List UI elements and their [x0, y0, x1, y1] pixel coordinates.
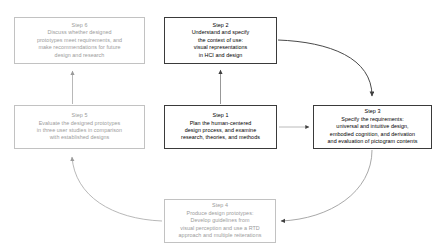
node-step1-body: Plan the human-centered design process, …	[181, 120, 260, 142]
node-step5-title: Step 5	[72, 112, 88, 119]
node-step5[interactable]: Step 5 Evaluate the designed prototypes …	[14, 105, 145, 149]
node-step6-title: Step 6	[72, 22, 88, 29]
node-step1-line-3: research, theories, and methods	[181, 134, 260, 141]
node-step2-line-1: Understand and specify	[192, 29, 250, 36]
connector-step3-to-step4	[281, 150, 372, 221]
node-step6-line-4: design and research	[37, 52, 122, 59]
node-step6-line-2: prototypes meet requirements, and	[37, 37, 122, 44]
diagram-canvas: Step 6 Discuss whether designed prototyp…	[0, 0, 446, 251]
node-step4-line-1: Produce design prototypes:	[179, 210, 262, 217]
node-step5-body: Evaluate the designed prototypes in thre…	[37, 120, 122, 142]
node-step6[interactable]: Step 6 Discuss whether designed prototyp…	[14, 17, 145, 64]
node-step5-line-3: with established designs	[37, 134, 122, 141]
connector-step4-to-step5	[72, 157, 162, 221]
node-step4-body: Produce design prototypes: Develop guide…	[179, 210, 262, 240]
node-step4-title: Step 4	[212, 202, 228, 209]
node-step1-line-1: Plan the human-centered	[181, 120, 260, 127]
node-step2-line-4: in HCI and design	[192, 52, 250, 59]
node-step3-line-1: Specify the requirements:	[328, 116, 418, 123]
node-step5-line-2: in three user studies in comparison	[37, 127, 122, 134]
node-step2-title: Step 2	[213, 22, 229, 29]
node-step2-line-3: visual representations	[192, 44, 250, 51]
node-step4-line-4: approach and multiple reiterations	[179, 232, 262, 239]
node-step4[interactable]: Step 4 Produce design prototypes: Develo…	[164, 199, 276, 243]
node-step1-title: Step 1	[213, 112, 229, 119]
node-step2-line-2: the context of use:	[192, 37, 250, 44]
node-step6-line-1: Discuss whether designed	[37, 29, 122, 36]
node-step2[interactable]: Step 2 Understand and specify the contex…	[164, 17, 277, 64]
node-step3-body: Specify the requirements: universal and …	[328, 116, 418, 146]
node-step3-line-2: universal and intuitive design,	[328, 123, 418, 130]
node-step3-line-3: embodied cognition, and derivation	[328, 131, 418, 138]
node-step4-line-3: visual perception and use a RTD	[179, 225, 262, 232]
node-step1-line-2: design process, and examine	[181, 127, 260, 134]
node-step3[interactable]: Step 3 Specify the requirements: univers…	[313, 105, 432, 149]
node-step1[interactable]: Step 1 Plan the human-centered design pr…	[164, 105, 277, 149]
node-step5-line-1: Evaluate the designed prototypes	[37, 120, 122, 127]
node-step3-title: Step 3	[365, 108, 381, 115]
node-step4-line-2: Develop guidelines from	[179, 217, 262, 224]
connector-step2-to-step3	[278, 40, 372, 96]
node-step2-body: Understand and specify the context of us…	[192, 29, 250, 59]
node-step3-line-4: and evaluation of pictogram contents	[328, 138, 418, 145]
node-step6-line-3: make recommendations for future	[37, 44, 122, 51]
node-step6-body: Discuss whether designed prototypes meet…	[37, 29, 122, 59]
